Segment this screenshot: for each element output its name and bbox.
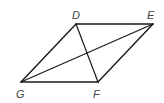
parallelogram-diagram: D E F G bbox=[0, 0, 164, 103]
vertex-label-d: D bbox=[72, 9, 80, 21]
diagonal-GE bbox=[21, 24, 153, 82]
vertex-label-e: E bbox=[147, 9, 155, 21]
side-GD bbox=[21, 24, 76, 82]
vertex-label-g: G bbox=[16, 88, 25, 100]
vertex-label-f: F bbox=[93, 88, 101, 100]
side-EF bbox=[98, 24, 153, 82]
